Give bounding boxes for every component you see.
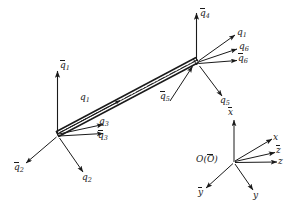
label-q6-bar: q6 xyxy=(238,54,248,63)
diagram-vectors xyxy=(0,0,301,214)
label-q2: q2 xyxy=(82,173,92,182)
label-q2-bar: q2 xyxy=(14,163,24,172)
vector-q2-bar xyxy=(26,137,57,163)
label-q5: q5 xyxy=(220,96,230,105)
axis-z xyxy=(235,162,277,163)
label-q5-bar: q5 xyxy=(160,92,170,101)
label-q1-bar: q1 xyxy=(60,61,70,70)
label-origin: O(O) xyxy=(196,155,218,164)
label-q4-bar: q4 xyxy=(200,9,210,18)
label-q3-bar: q3 xyxy=(98,131,108,140)
label-axis-x: x xyxy=(273,133,278,142)
beam-element-diagram: q1 q1 q3 q3 q2 q2 q4 q1 q6 q6 q5 q5 x x … xyxy=(0,0,301,214)
vector-q5 xyxy=(200,66,223,96)
vector-q3-bar xyxy=(59,134,103,137)
label-axis-y-bar: y xyxy=(198,188,203,197)
label-q1: q1 xyxy=(80,93,90,102)
label-axis-z: z xyxy=(278,157,283,166)
label-q4-upper: q1 xyxy=(237,28,247,37)
axis-y-bar xyxy=(206,164,233,189)
label-q6: q6 xyxy=(239,42,249,51)
beam-body xyxy=(56,58,199,138)
label-axis-y: y xyxy=(253,191,258,200)
label-axis-z-bar: z xyxy=(276,146,281,155)
axis-y xyxy=(235,164,253,190)
vector-q6 xyxy=(199,49,238,62)
vector-q6-bar xyxy=(199,61,238,64)
right-node-vectors xyxy=(170,13,237,101)
vector-q4-upper xyxy=(199,35,236,61)
vector-q2 xyxy=(60,138,84,172)
label-q3: q3 xyxy=(99,117,109,126)
label-axis-x-bar: x xyxy=(228,108,233,117)
